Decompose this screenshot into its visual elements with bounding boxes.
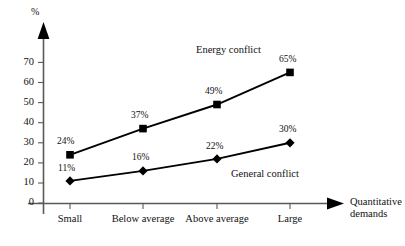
- y-tick-label-30: 30: [12, 136, 34, 147]
- series-label-general-conflict: General conflict: [231, 168, 299, 179]
- data-label-energy-below-average: 37%: [131, 110, 148, 120]
- x-category-label-above-average: Above average: [177, 213, 257, 224]
- data-label-general-below-average: 16%: [132, 152, 149, 162]
- y-axis: [38, 22, 50, 214]
- data-label-energy-large: 65%: [279, 54, 296, 64]
- x-axis: [28, 197, 344, 209]
- x-axis-title-line1: Quantitative: [350, 196, 402, 208]
- data-label-energy-above-average: 49%: [205, 86, 222, 96]
- y-tick-label-20: 20: [12, 156, 34, 167]
- x-category-label-small: Small: [40, 213, 100, 224]
- y-axis-unit-label: %: [31, 6, 39, 17]
- x-category-label-below-average: Below average: [103, 213, 183, 224]
- chart-plot-area: [0, 0, 405, 246]
- series-label-energy-conflict: Energy conflict: [196, 44, 261, 55]
- y-tick-label-40: 40: [12, 116, 34, 127]
- data-label-energy-small: 24%: [57, 136, 74, 146]
- y-tick-label-0: 0: [12, 196, 34, 207]
- chart-container: % 70 60 50 40 30 20 10 0 Small Below ave…: [0, 0, 405, 246]
- x-axis-title-line2: demands: [350, 208, 387, 220]
- data-label-general-small: 11%: [58, 163, 75, 173]
- series-energy-conflict: [66, 69, 294, 159]
- y-tick-label-70: 70: [12, 56, 34, 67]
- y-tick-label-50: 50: [12, 96, 34, 107]
- data-label-general-large: 30%: [279, 124, 296, 134]
- data-label-general-above-average: 22%: [206, 141, 223, 151]
- x-category-label-large: Large: [260, 213, 320, 224]
- y-tick-label-60: 60: [12, 76, 34, 87]
- y-tick-label-10: 10: [12, 176, 34, 187]
- x-axis-ticks: [70, 204, 290, 210]
- y-axis-ticks: [38, 62, 44, 203]
